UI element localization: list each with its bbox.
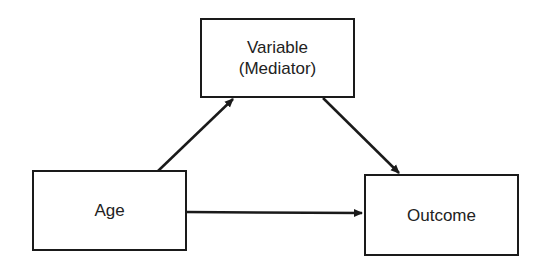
age-label: Age [94, 200, 124, 221]
arrow-age-to-mediator [158, 99, 233, 171]
mediator-label-line1: Variable [239, 37, 316, 58]
mediator-box: Variable (Mediator) [200, 18, 355, 98]
outcome-label: Outcome [407, 205, 476, 226]
age-box: Age [32, 170, 187, 251]
outcome-box: Outcome [364, 174, 519, 256]
arrow-age-to-outcome [186, 212, 362, 213]
arrow-mediator-to-outcome [323, 98, 399, 173]
mediator-label-line2: (Mediator) [239, 58, 316, 79]
